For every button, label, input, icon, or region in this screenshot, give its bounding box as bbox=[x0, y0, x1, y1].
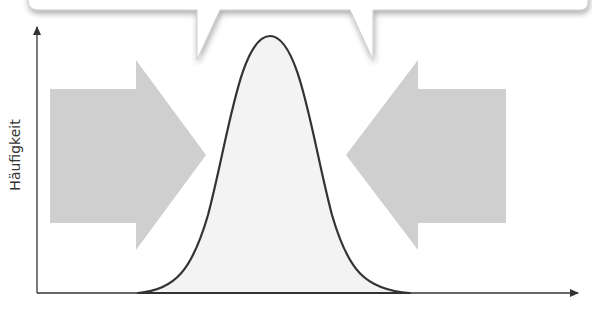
callout-bubble bbox=[22, 0, 588, 60]
arrow-right-icon bbox=[50, 60, 206, 250]
arrow-left-icon bbox=[346, 60, 506, 250]
y-axis-label: Häufigkeit bbox=[5, 145, 25, 165]
bell-curve-diagram bbox=[0, 0, 592, 313]
